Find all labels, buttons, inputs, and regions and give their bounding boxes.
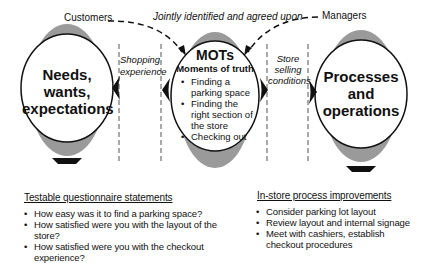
- customers-label: Customers: [64, 12, 112, 23]
- store-selling-conditions-label: Store selling conditions: [268, 53, 308, 86]
- arrow-out-center-right: [260, 78, 268, 102]
- improvements-list: Consider parking lot layout Review layou…: [254, 206, 424, 250]
- arrow-out-center-left: [162, 78, 170, 102]
- testable-item: How easy was it to find a parking space?: [22, 208, 222, 219]
- right-down-arrow: [346, 166, 376, 172]
- mot-title: MOTs: [172, 47, 258, 63]
- mot-subtitle: Moments of truth: [172, 63, 258, 74]
- improvement-item: Review layout and internal signage: [254, 217, 424, 228]
- jointly-label: Jointly identified and agreed upon: [153, 11, 303, 22]
- right-circle-text: Processes and operations: [316, 68, 406, 119]
- mot-item: Checking out: [180, 131, 254, 142]
- improvements-title: In-store process improvements: [257, 190, 391, 201]
- testable-item: How satisfied were you with the checkout…: [22, 241, 222, 263]
- mot-item: Finding a parking space: [180, 76, 254, 98]
- mot-item: Finding the right section of the store: [180, 98, 254, 131]
- left-down-arrow: [52, 158, 82, 164]
- testable-list: How easy was it to find a parking space?…: [22, 208, 222, 263]
- shopping-experience-label: Shopping experience: [120, 54, 160, 78]
- mot-list: Finding a parking space Finding the righ…: [180, 76, 254, 142]
- improvement-item: Meet with cashiers, establish checkout p…: [254, 228, 424, 250]
- managers-label: Managers: [322, 10, 366, 21]
- left-circle-text: Needs, wants, expectations: [22, 66, 112, 117]
- testable-title: Testable questionnaire statements: [24, 192, 172, 203]
- improvement-item: Consider parking lot layout: [254, 206, 424, 217]
- center-circle-text: MOTs Moments of truth: [172, 47, 258, 74]
- testable-item: How satisfied were you with the layout o…: [22, 219, 222, 241]
